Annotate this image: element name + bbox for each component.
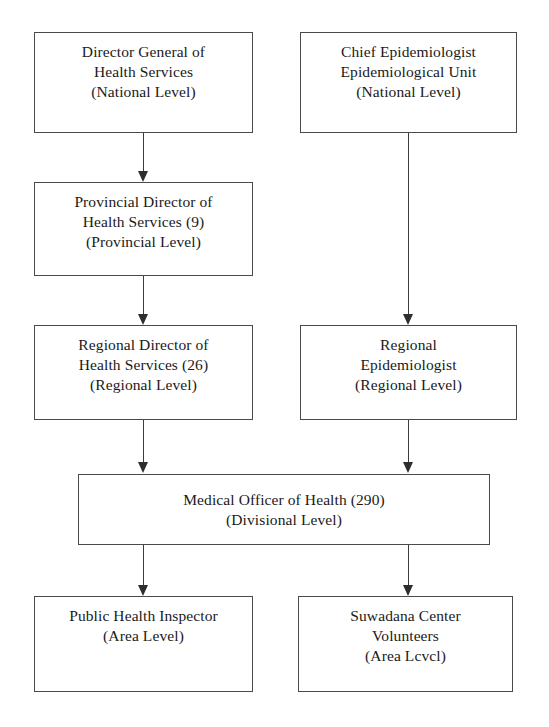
node-director-general[interactable]: Director General of Health Services (Nat… [34,32,253,133]
node-suwadana-volunteers-line1: Suwadana Center [350,606,460,626]
org-flowchart: Director General of Health Services (Nat… [0,0,549,727]
edge-medical-officer-to-suwadana-volunteers [408,545,409,587]
node-provincial-director-line2: Health Services (9) [83,212,205,232]
node-public-health-inspector-line2: (Area Level) [103,626,184,646]
node-medical-officer-line1: Medical Officer of Health (290) [183,490,385,510]
arrowhead-to-public-health-inspector [138,585,148,596]
node-regional-director-line1: Regional Director of [78,335,208,355]
node-public-health-inspector[interactable]: Public Health Inspector (Area Level) [34,596,253,692]
edge-director-general-to-provincial-director [143,133,144,173]
node-provincial-director-line1: Provincial Director of [74,192,212,212]
node-regional-epidemiologist-line3: (Regional Level) [355,375,462,395]
node-regional-epidemiologist-line1: Regional [380,335,437,355]
node-suwadana-volunteers-line3: (Area Lcvcl) [365,646,446,666]
node-suwadana-volunteers[interactable]: Suwadana Center Volunteers (Area Lcvcl) [298,596,513,692]
arrowhead-medical-officer-left-inbound [138,462,148,473]
edge-provincial-director-to-regional-director [143,276,144,316]
arrowhead-to-provincial-director [138,171,148,182]
node-director-general-line2: Health Services [94,62,193,82]
node-regional-epidemiologist-line2: Epidemiologist [360,355,456,375]
node-provincial-director-line3: (Provincial Level) [86,232,201,252]
node-chief-epidemiologist-line1: Chief Epidemiologist [341,42,476,62]
node-medical-officer-line2: (Divisional Level) [226,510,342,530]
node-chief-epidemiologist-line3: (National Level) [356,82,460,102]
edge-regional-epidemiologist-to-medical-officer [408,420,409,464]
node-regional-director-line3: (Regional Level) [90,375,197,395]
node-suwadana-volunteers-line2: Volunteers [372,626,439,646]
node-regional-director-line2: Health Services (26) [79,355,208,375]
arrowhead-to-regional-director [138,314,148,325]
node-director-general-line3: (National Level) [91,82,195,102]
node-provincial-director[interactable]: Provincial Director of Health Services (… [34,182,253,276]
arrowhead-to-regional-epidemiologist [403,314,413,325]
edge-medical-officer-to-public-health-inspector [143,545,144,587]
node-regional-director[interactable]: Regional Director of Health Services (26… [34,325,253,420]
node-chief-epidemiologist[interactable]: Chief Epidemiologist Epidemiological Uni… [300,32,517,133]
node-director-general-line1: Director General of [82,42,205,62]
node-regional-epidemiologist[interactable]: Regional Epidemiologist (Regional Level) [300,325,517,420]
node-public-health-inspector-line1: Public Health Inspector [69,606,218,626]
node-medical-officer-of-health[interactable]: Medical Officer of Health (290) (Divisio… [78,474,490,545]
edge-chief-epidemiologist-to-regional-epidemiologist [408,133,409,316]
arrowhead-medical-officer-right-inbound [403,462,413,473]
node-chief-epidemiologist-line2: Epidemiological Unit [341,62,477,82]
edge-regional-director-to-medical-officer [143,420,144,464]
arrowhead-to-suwadana-volunteers [403,585,413,596]
